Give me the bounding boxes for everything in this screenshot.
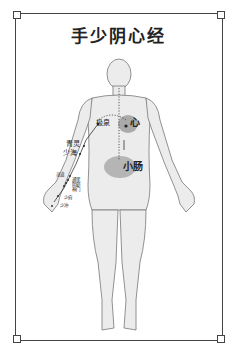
point-label-shaochong: 少冲 — [60, 204, 68, 209]
arm-left — [146, 98, 195, 212]
point-label-lingdao: 灵道 — [56, 173, 64, 178]
point-label-shaohai: 少海 — [63, 150, 77, 157]
body-figure — [0, 0, 236, 357]
organ-label-small-intestine: 小肠 — [123, 162, 143, 172]
point-label-shaofu: 少府 — [64, 196, 72, 201]
leg-left — [120, 210, 146, 330]
heart-point — [124, 124, 127, 127]
head — [107, 59, 131, 89]
point-label-shenmen: 神门 — [72, 188, 80, 193]
point-label-qingling: 青灵 — [66, 141, 80, 148]
point-label-jiquan: 极泉 — [96, 120, 110, 127]
organ-label-heart: 心 — [130, 118, 140, 128]
leg-right — [92, 210, 118, 330]
